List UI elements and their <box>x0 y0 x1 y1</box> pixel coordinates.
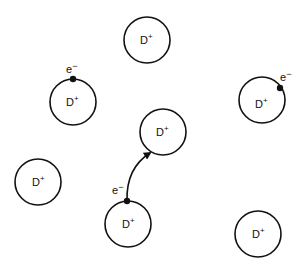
ion-right: D+ e− <box>239 69 291 123</box>
ion-label: D+ <box>122 216 135 230</box>
ion-label: D+ <box>66 94 79 108</box>
ion-label: D+ <box>255 96 268 110</box>
ion-top: D+ <box>124 17 170 63</box>
electron-label: e− <box>112 182 123 196</box>
ion-label: D+ <box>156 124 169 138</box>
electron-dot <box>70 76 76 82</box>
electron-label: e− <box>66 61 77 75</box>
ion-bottom-center: D+ <box>105 198 151 247</box>
electron-dot <box>277 85 283 91</box>
ion-label: D+ <box>32 174 45 188</box>
electron-label: e− <box>280 69 291 83</box>
curved-arrow-icon <box>127 153 150 201</box>
electron-hop-arrow: e− <box>112 153 150 201</box>
ion-label: D+ <box>252 226 265 240</box>
ion-center: D+ <box>140 109 186 155</box>
ion-bottom-right: D+ <box>235 211 281 257</box>
ion-label: D+ <box>140 32 153 46</box>
hopping-diagram: D+ D+ e− D+ e− D+ D+ D+ e− D+ <box>0 0 304 269</box>
ion-left-lower: D+ <box>15 159 61 205</box>
ion-left-upper: D+ e− <box>50 61 96 125</box>
